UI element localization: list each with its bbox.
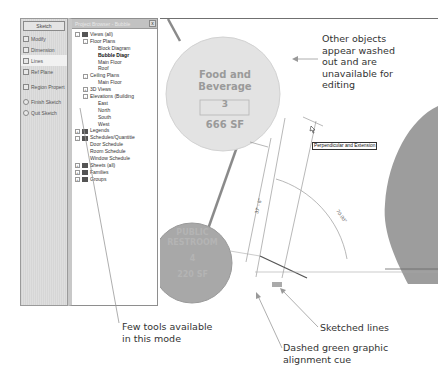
tree-node[interactable]: Room Schedule [72, 148, 157, 155]
tool-label: Lines [31, 58, 43, 64]
collapse-icon[interactable]: - [75, 136, 80, 141]
project-browser-title: Project Browser - Bubble x [72, 19, 157, 29]
restroom-name-label: PUBLIC RESTROOM 4 220 SF [160, 228, 225, 280]
tool-label: Dimension [31, 47, 55, 53]
callout-washed-out: Other objects appear washed out and are … [322, 33, 432, 91]
callout-alignment-cue: Dashed green graphic alignment cue [283, 342, 438, 365]
collapse-icon[interactable]: - [83, 74, 88, 79]
tree-node[interactable]: +Legends [72, 127, 157, 134]
tool-region-properties[interactable]: Region Propert [21, 81, 67, 92]
schedules-icon [82, 136, 88, 141]
tree-node-label: Views (all) [90, 31, 113, 37]
quit-sketch-icon [23, 110, 29, 116]
dimension-length-label: 37' - 6" [253, 198, 263, 215]
dimension-icon [23, 47, 29, 53]
tree-node-label: West [98, 121, 109, 127]
food-beverage-bubble [166, 37, 280, 151]
finish-sketch-icon [23, 99, 29, 105]
expand-icon[interactable]: + [75, 129, 80, 134]
views-icon [82, 32, 88, 37]
tool-quit-sketch[interactable]: Quit Sketch [21, 107, 67, 118]
connector-line [168, 19, 180, 41]
tree-node-label: Bubble Diagr [98, 52, 129, 58]
tree-node[interactable]: Bubble Diagr [72, 52, 157, 59]
sketch-toolbar: Sketch Modify Dimension Lines Ref Plane … [20, 18, 68, 306]
collapse-icon[interactable]: - [83, 94, 88, 99]
tree-node[interactable]: -Schedules/Quantitie [72, 134, 157, 141]
tool-label: Quit Sketch [31, 110, 57, 116]
tree-node[interactable]: Window Schedule [72, 155, 157, 162]
tree-node-label: Floor Plans [90, 38, 115, 44]
tree-node-label: Main Floor [98, 59, 122, 65]
tool-modify[interactable]: Modify [21, 33, 67, 44]
tree-node[interactable]: North [72, 107, 157, 114]
tree-node[interactable]: West [72, 121, 157, 128]
tree-node[interactable]: +Sheets (all) [72, 162, 157, 169]
tree-node[interactable]: Door Schedule [72, 141, 157, 148]
tree-node-label: Window Schedule [90, 155, 130, 161]
tree-node[interactable]: Block Diagram [72, 45, 157, 52]
browser-title-text: Project Browser - Bubble [75, 21, 130, 27]
sketch-tab[interactable]: Sketch [23, 21, 65, 31]
lines-icon [23, 58, 29, 64]
tree-node[interactable]: Roof [72, 65, 157, 72]
tool-lines[interactable]: Lines [21, 55, 67, 66]
tool-finish-sketch[interactable]: Finish Sketch [21, 96, 67, 107]
collapse-icon[interactable]: - [75, 32, 80, 37]
alignment-cue-icon [272, 282, 282, 287]
tree-node-label: East [98, 100, 108, 106]
tree-node-label: Block Diagram [98, 45, 131, 51]
tool-ref-plane[interactable]: Ref Plane [21, 66, 67, 77]
tool-label: Ref Plane [31, 69, 53, 75]
tree-node-label: 3D Views [90, 86, 111, 92]
tree-node[interactable]: East [72, 100, 157, 107]
tree-node[interactable]: -Floor Plans [72, 38, 157, 45]
tree-node[interactable]: -Elevations (Building [72, 93, 157, 100]
tool-label: Region Propert [31, 84, 65, 90]
expand-icon[interactable]: + [75, 177, 80, 182]
tree-node[interactable]: +Families [72, 169, 157, 176]
callout-few-tools: Few tools available in this mode [122, 321, 252, 344]
close-icon[interactable]: x [149, 20, 156, 27]
families-icon [82, 170, 88, 175]
tree-node-label: Roof [98, 65, 109, 71]
tree-node-label: Families [90, 169, 109, 175]
callout-sketched-lines: Sketched lines [320, 322, 430, 334]
expand-icon[interactable]: + [83, 87, 88, 92]
tree-node-label: Legends [90, 127, 109, 133]
region-properties-icon [23, 84, 29, 90]
tree-node-label: Elevations (Building [90, 93, 134, 99]
connector-line [208, 144, 238, 229]
room-name-label: Food and Beverage [175, 69, 275, 93]
tree-node-label: Door Schedule [90, 141, 123, 147]
tree-node[interactable]: -Views (all) [72, 31, 157, 38]
expand-icon[interactable]: + [75, 170, 80, 175]
collapse-icon[interactable]: - [83, 39, 88, 44]
tool-label: Finish Sketch [31, 99, 61, 105]
sheets-icon [82, 163, 88, 168]
groups-icon [82, 177, 88, 182]
sketch-line [282, 121, 316, 278]
tree-node[interactable]: +3D Views [72, 86, 157, 93]
tree-node-label: Room Schedule [90, 148, 126, 154]
tree-node-label: Main Floor [98, 79, 122, 85]
tree-node-label: Groups [90, 176, 106, 182]
arrow-cursor-icon [23, 36, 29, 42]
tree-node[interactable]: Main Floor [72, 79, 157, 86]
dark-region [385, 106, 438, 284]
tool-dimension[interactable]: Dimension [21, 44, 67, 55]
tree-node-label: Sheets (all) [90, 162, 115, 168]
tree-node[interactable]: +Groups [72, 176, 157, 183]
tree-node-label: North [98, 107, 110, 113]
angle-arc [276, 179, 347, 259]
expand-icon[interactable]: + [75, 163, 80, 168]
tree-node[interactable]: -Ceiling Plans [72, 72, 157, 79]
tree-node[interactable]: South [72, 114, 157, 121]
legends-icon [82, 129, 88, 134]
tool-label: Modify [31, 36, 46, 42]
ref-plane-icon [23, 69, 29, 75]
room-number-label: 3 [200, 99, 250, 109]
room-area-label: 666 SF [190, 119, 260, 130]
tree-node[interactable]: Main Floor [72, 59, 157, 66]
active-sketch-line [260, 256, 307, 278]
